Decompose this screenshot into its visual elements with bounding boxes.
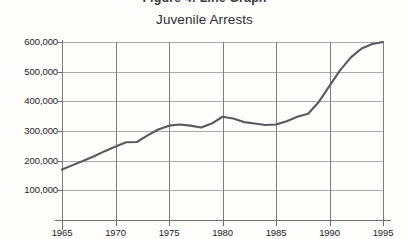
y-axis-label: 300,000 [2, 125, 58, 136]
x-axis-tick [223, 220, 224, 226]
y-axis-label: 100,000 [2, 184, 58, 195]
x-axis-label: 1990 [310, 227, 350, 238]
gridline-vertical [116, 42, 117, 220]
chart-title: Juvenile Arrests [0, 12, 409, 27]
x-axis-label: 1985 [256, 227, 296, 238]
y-axis-label: 400,000 [2, 95, 58, 106]
gridline-vertical [383, 42, 384, 220]
gridline-vertical [276, 42, 277, 220]
x-axis-label: 1980 [203, 227, 243, 238]
y-axis-tick [57, 101, 62, 102]
x-axis-tick [330, 220, 331, 226]
x-axis-tick [62, 220, 63, 226]
x-axis-tick [383, 220, 384, 226]
gridline-vertical [169, 42, 170, 220]
figure-caption: Figure 4: Line Graph [0, 0, 409, 6]
y-axis-tick [57, 72, 62, 73]
figure-container: Figure 4: Line Graph Juvenile Arrests 10… [0, 0, 409, 239]
x-axis-tick [116, 220, 117, 226]
y-axis-label: 200,000 [2, 155, 58, 166]
y-axis-label: 600,000 [2, 36, 58, 47]
y-axis-tick [57, 42, 62, 43]
x-axis-label: 1995 [363, 227, 403, 238]
y-axis-labels: 100,000200,000300,000400,000500,000600,0… [0, 0, 58, 239]
x-axis-label: 1965 [42, 227, 82, 238]
gridline-vertical [62, 42, 63, 220]
x-axis-tick [276, 220, 277, 226]
plot-area [62, 42, 383, 220]
y-axis-label: 500,000 [2, 66, 58, 77]
x-axis-label: 1975 [149, 227, 189, 238]
y-axis-tick [57, 190, 62, 191]
y-axis-tick [57, 131, 62, 132]
x-axis-label: 1970 [96, 227, 136, 238]
gridline-vertical [330, 42, 331, 220]
x-axis-tick [169, 220, 170, 226]
y-axis-tick [57, 161, 62, 162]
gridline-vertical [223, 42, 224, 220]
